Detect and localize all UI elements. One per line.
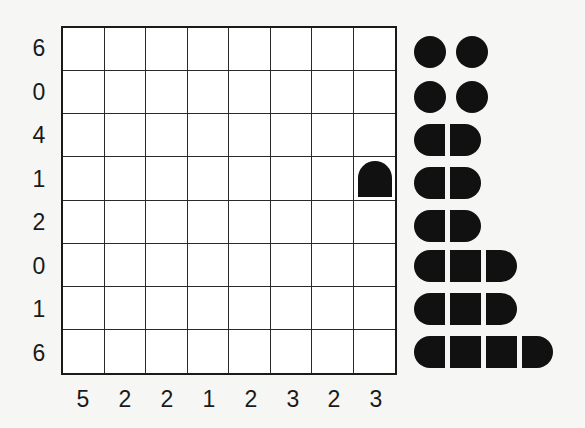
grid-cell-r8-c3[interactable]	[146, 330, 188, 373]
grid-cell-r7-c8[interactable]	[354, 287, 396, 330]
row-clue-8: 6	[24, 342, 54, 365]
row-clue-2: 0	[24, 81, 54, 104]
grid-cell-r6-c4[interactable]	[188, 244, 230, 287]
row-clue-3: 4	[24, 124, 54, 147]
grid-cell-r1-c2[interactable]	[105, 28, 147, 71]
grid-cell-r8-c1[interactable]	[63, 330, 105, 373]
grid-cell-r1-c7[interactable]	[312, 28, 354, 71]
grid-cell-r3-c1[interactable]	[63, 114, 105, 157]
ship-end-right-icon	[522, 336, 553, 368]
ship-middle-icon	[450, 250, 481, 282]
ship-end-left-icon	[414, 250, 445, 282]
grid-cell-r6-c8[interactable]	[354, 244, 396, 287]
grid-cell-r7-c7[interactable]	[312, 287, 354, 330]
grid-cell-r4-c8[interactable]	[354, 157, 396, 200]
grid-cell-r3-c3[interactable]	[146, 114, 188, 157]
grid-cell-r5-c4[interactable]	[188, 201, 230, 244]
grid-cell-r4-c5[interactable]	[229, 157, 271, 200]
grid-cell-r6-c7[interactable]	[312, 244, 354, 287]
grid-cell-r1-c4[interactable]	[188, 28, 230, 71]
grid-cell-r3-c4[interactable]	[188, 114, 230, 157]
col-clue-2: 2	[104, 388, 146, 411]
grid-cell-r7-c5[interactable]	[229, 287, 271, 330]
grid-cell-r7-c4[interactable]	[188, 287, 230, 330]
grid-cell-r5-c1[interactable]	[63, 201, 105, 244]
grid-cell-r5-c3[interactable]	[146, 201, 188, 244]
grid-cell-r4-c4[interactable]	[188, 157, 230, 200]
grid-cell-r2-c1[interactable]	[63, 71, 105, 114]
grid-cell-r2-c7[interactable]	[312, 71, 354, 114]
submarine-icon	[456, 36, 488, 68]
col-clue-1: 5	[62, 388, 104, 411]
submarine-icon	[414, 36, 446, 68]
col-clue-4: 1	[188, 388, 230, 411]
grid-cell-r3-c7[interactable]	[312, 114, 354, 157]
ship-middle-icon	[486, 336, 517, 368]
grid-cell-r8-c2[interactable]	[105, 330, 147, 373]
grid-cell-r1-c8[interactable]	[354, 28, 396, 71]
grid-cell-r3-c8[interactable]	[354, 114, 396, 157]
grid-cell-r6-c1[interactable]	[63, 244, 105, 287]
grid-cell-r3-c6[interactable]	[271, 114, 313, 157]
grid-cell-r2-c3[interactable]	[146, 71, 188, 114]
grid-cell-r1-c1[interactable]	[63, 28, 105, 71]
puzzle-grid	[61, 26, 397, 375]
fleet-row-submarines-2	[414, 81, 488, 113]
fleet-row-battleship	[414, 336, 553, 368]
grid-cell-r4-c2[interactable]	[105, 157, 147, 200]
fleet-row-destroyer-3	[414, 210, 481, 242]
row-clue-5: 2	[24, 211, 54, 234]
grid-cell-r7-c1[interactable]	[63, 287, 105, 330]
grid-cell-r6-c6[interactable]	[271, 244, 313, 287]
grid-cell-r5-c5[interactable]	[229, 201, 271, 244]
row-clue-4: 1	[24, 168, 54, 191]
grid-cell-r2-c4[interactable]	[188, 71, 230, 114]
grid-cell-r4-c1[interactable]	[63, 157, 105, 200]
grid-cell-r6-c3[interactable]	[146, 244, 188, 287]
fleet-row-submarines-1	[414, 36, 488, 68]
col-clue-7: 2	[313, 388, 355, 411]
grid-cell-r1-c5[interactable]	[229, 28, 271, 71]
grid-cell-r7-c6[interactable]	[271, 287, 313, 330]
col-clue-3: 2	[146, 388, 188, 411]
grid-cell-r2-c6[interactable]	[271, 71, 313, 114]
ship-end-left-icon	[414, 293, 445, 325]
grid-cell-r8-c4[interactable]	[188, 330, 230, 373]
grid-cell-r8-c8[interactable]	[354, 330, 396, 373]
grid-cell-r4-c7[interactable]	[312, 157, 354, 200]
grid-cell-r1-c6[interactable]	[271, 28, 313, 71]
grid-cell-r5-c6[interactable]	[271, 201, 313, 244]
grid-cell-r3-c2[interactable]	[105, 114, 147, 157]
ship-middle-icon	[450, 336, 481, 368]
grid-cell-r7-c3[interactable]	[146, 287, 188, 330]
ship-end-right-icon	[486, 250, 517, 282]
ship-end-left-icon	[414, 336, 445, 368]
grid-cell-r4-c6[interactable]	[271, 157, 313, 200]
col-clue-6: 3	[272, 388, 314, 411]
grid-cell-r1-c3[interactable]	[146, 28, 188, 71]
grid-cell-r8-c6[interactable]	[271, 330, 313, 373]
grid-cell-r7-c2[interactable]	[105, 287, 147, 330]
grid-cell-r2-c2[interactable]	[105, 71, 147, 114]
fleet-row-destroyer-1	[414, 124, 481, 156]
grid-cell-r8-c7[interactable]	[312, 330, 354, 373]
grid-cell-r8-c5[interactable]	[229, 330, 271, 373]
grid-cell-r4-c3[interactable]	[146, 157, 188, 200]
grid-cell-r2-c8[interactable]	[354, 71, 396, 114]
grid-cell-r2-c5[interactable]	[229, 71, 271, 114]
row-clue-1: 6	[24, 37, 54, 60]
ship-end-right-icon	[450, 167, 481, 199]
ship-end-right-icon	[450, 210, 481, 242]
grid-cell-r5-c7[interactable]	[312, 201, 354, 244]
ship-end-left-icon	[414, 124, 445, 156]
row-clue-6: 0	[24, 255, 54, 278]
grid-cell-r5-c8[interactable]	[354, 201, 396, 244]
ship-end-left-icon	[414, 167, 445, 199]
row-clue-7: 1	[24, 298, 54, 321]
grid-cell-r5-c2[interactable]	[105, 201, 147, 244]
grid-cell-r6-c2[interactable]	[105, 244, 147, 287]
ship-end-left-icon	[414, 210, 445, 242]
grid-cell-r6-c5[interactable]	[229, 244, 271, 287]
grid-cell-r3-c5[interactable]	[229, 114, 271, 157]
ship-end-top-icon	[358, 161, 393, 196]
